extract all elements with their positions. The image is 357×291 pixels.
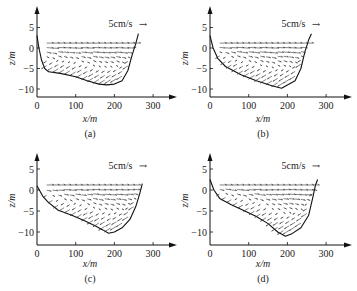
x-tick-label: 100 bbox=[68, 100, 83, 111]
velocity-scale-label: 5cm/s bbox=[109, 18, 133, 29]
x-tick-label: 0 bbox=[35, 100, 40, 111]
x-tick-label: 300 bbox=[319, 248, 334, 259]
x-tick-label: 100 bbox=[241, 248, 256, 259]
x-tick-label: 200 bbox=[280, 248, 295, 259]
panel-b: 50−5−100100200300z/mx/m(b)5cm/s bbox=[179, 6, 352, 140]
subfigure-label: (d) bbox=[257, 273, 269, 285]
y-tick-label: 5 bbox=[202, 164, 207, 175]
y-tick-label: −10 bbox=[191, 84, 207, 95]
y-tick-label: −5 bbox=[23, 206, 34, 217]
x-axis-label: x/m bbox=[82, 258, 97, 269]
y-tick-label: −5 bbox=[196, 63, 207, 74]
y-tick-label: 5 bbox=[29, 164, 34, 175]
velocity-scale-label: 5cm/s bbox=[282, 18, 306, 29]
y-tick-label: −10 bbox=[191, 227, 207, 238]
velocity-scale-label: 5cm/s bbox=[282, 160, 306, 171]
y-tick-label: 5 bbox=[29, 22, 34, 33]
y-tick-label: −10 bbox=[18, 84, 34, 95]
bed-profile-line bbox=[210, 180, 318, 237]
y-tick-label: 0 bbox=[202, 185, 207, 196]
y-axis-label: z/m bbox=[6, 51, 17, 66]
panel-d: 50−5−100100200300z/mx/m(d)5cm/s bbox=[179, 153, 352, 285]
subfigure-label: (c) bbox=[84, 273, 95, 285]
y-axis-arrow-icon bbox=[208, 153, 213, 161]
y-tick-label: 0 bbox=[29, 43, 34, 54]
y-axis-arrow-icon bbox=[208, 6, 213, 14]
y-tick-label: 0 bbox=[29, 185, 34, 196]
x-axis-arrow-icon bbox=[169, 243, 177, 248]
subfigure-label: (a) bbox=[84, 128, 95, 140]
x-tick-label: 300 bbox=[319, 100, 334, 111]
x-axis-arrow-icon bbox=[344, 243, 352, 248]
x-tick-label: 300 bbox=[146, 100, 161, 111]
x-axis-label: x/m bbox=[82, 113, 97, 124]
x-tick-label: 200 bbox=[107, 100, 122, 111]
y-axis-arrow-icon bbox=[35, 153, 40, 161]
x-tick-label: 0 bbox=[208, 100, 213, 111]
x-tick-label: 300 bbox=[146, 248, 161, 259]
panel-c: 50−5−100100200300z/mx/m(c)5cm/s bbox=[6, 153, 177, 285]
subfigure-label: (b) bbox=[257, 128, 269, 140]
x-tick-label: 200 bbox=[280, 100, 295, 111]
x-tick-label: 0 bbox=[35, 248, 40, 259]
y-axis-label: z/m bbox=[179, 51, 190, 66]
y-axis-label: z/m bbox=[6, 194, 17, 209]
y-tick-label: 5 bbox=[202, 22, 207, 33]
y-tick-label: −10 bbox=[18, 227, 34, 238]
velocity-vectors bbox=[215, 42, 313, 87]
x-tick-label: 200 bbox=[107, 248, 122, 259]
y-tick-label: −5 bbox=[196, 206, 207, 217]
velocity-vectors bbox=[217, 184, 320, 235]
bed-profile-line bbox=[37, 34, 138, 85]
bed-profile-line bbox=[210, 34, 311, 88]
y-axis-arrow-icon bbox=[35, 6, 40, 14]
x-tick-label: 100 bbox=[241, 100, 256, 111]
x-tick-label: 0 bbox=[208, 248, 213, 259]
figure: 50−5−100100200300z/mx/m(a)5cm/s50−5−1001… bbox=[0, 0, 357, 291]
y-tick-label: −5 bbox=[23, 63, 34, 74]
x-axis-label: x/m bbox=[255, 258, 270, 269]
y-axis-label: z/m bbox=[179, 194, 190, 209]
panel-a: 50−5−100100200300z/mx/m(a)5cm/s bbox=[6, 6, 177, 140]
x-tick-label: 100 bbox=[68, 248, 83, 259]
x-axis-label: x/m bbox=[255, 113, 270, 124]
x-axis-arrow-icon bbox=[344, 95, 352, 100]
velocity-scale-label: 5cm/s bbox=[109, 160, 133, 171]
x-axis-arrow-icon bbox=[169, 95, 177, 100]
y-tick-label: 0 bbox=[202, 43, 207, 54]
velocity-vectors bbox=[41, 42, 140, 84]
